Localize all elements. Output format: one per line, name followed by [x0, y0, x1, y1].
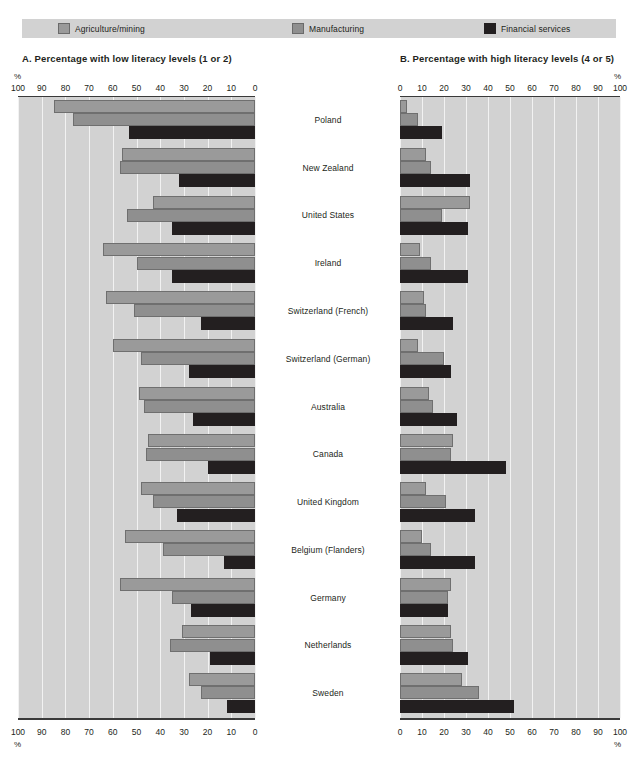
gridline	[510, 97, 511, 718]
bar-manu	[400, 543, 431, 556]
panel-b-title: B. Percentage with high literacy levels …	[400, 53, 614, 64]
axis-tick-label: 10	[417, 727, 426, 737]
bar-agri	[400, 578, 451, 591]
axis-tick-label: 20	[439, 727, 448, 737]
legend: Agriculture/mining Manufacturing Financi…	[22, 19, 616, 38]
chart-page: Agriculture/mining Manufacturing Financi…	[0, 0, 638, 758]
bar-manu	[400, 352, 444, 365]
gridline	[18, 97, 19, 718]
bar-manu	[400, 113, 418, 126]
bar-fin	[400, 270, 468, 283]
country-label: Germany	[258, 593, 398, 603]
bar-manu	[400, 495, 446, 508]
bar-fin	[400, 556, 475, 569]
panel-b-plot-area	[400, 97, 620, 718]
bar-fin	[400, 461, 506, 474]
bar-agri	[400, 291, 424, 304]
legend-label-financial-services: Financial services	[501, 24, 570, 34]
bar-fin	[179, 174, 255, 187]
square-swatch-icon	[484, 23, 496, 34]
axis-tick-label: 70	[549, 727, 558, 737]
bar-fin	[400, 604, 448, 617]
bar-fin	[400, 509, 475, 522]
bar-fin	[400, 652, 468, 665]
gridline	[89, 97, 90, 718]
bar-manu	[146, 448, 255, 461]
panel-a-percent-symbol-top: %	[14, 72, 21, 81]
bar-manu	[400, 257, 431, 270]
gridline	[137, 97, 138, 718]
bar-manu	[400, 209, 442, 222]
axis-tick-label: 90	[593, 83, 602, 93]
panel-a-axis-rule-top	[18, 96, 255, 98]
axis-tick-label: 50	[505, 727, 514, 737]
country-label: United States	[258, 210, 398, 220]
axis-tick-label: 0	[398, 83, 403, 93]
panel-b-percent-symbol-top: %	[614, 72, 621, 81]
country-label: Canada	[258, 449, 398, 459]
country-label: Belgium (Flanders)	[258, 545, 398, 555]
bar-agri	[125, 530, 255, 543]
bar-fin	[189, 365, 255, 378]
bar-agri	[54, 100, 255, 113]
bar-agri	[400, 196, 470, 209]
bar-agri	[400, 243, 420, 256]
bar-agri	[400, 434, 453, 447]
bar-fin	[400, 700, 514, 713]
bar-fin	[400, 365, 451, 378]
panel-b-axis-rule-top	[400, 96, 620, 98]
bar-manu	[170, 639, 255, 652]
gridline	[532, 97, 533, 718]
bar-fin	[400, 317, 453, 330]
bar-manu	[144, 400, 255, 413]
country-label: United Kingdom	[258, 497, 398, 507]
panel-b-axis-ticks-bottom: 0102030405060708090100	[0, 727, 638, 739]
bar-manu	[137, 257, 256, 270]
bar-agri	[189, 673, 255, 686]
axis-tick-label: 100	[613, 83, 627, 93]
bar-manu	[400, 639, 453, 652]
bar-fin	[400, 222, 468, 235]
gridline	[255, 97, 256, 718]
panel-a-plot-area	[18, 97, 255, 718]
axis-tick-label: 60	[527, 727, 536, 737]
bar-agri	[113, 339, 255, 352]
bar-fin	[191, 604, 255, 617]
bar-manu	[400, 591, 448, 604]
bar-agri	[400, 100, 407, 113]
bar-agri	[400, 148, 426, 161]
bar-fin	[177, 509, 255, 522]
country-label: Ireland	[258, 258, 398, 268]
bar-agri	[400, 625, 451, 638]
bar-fin	[227, 700, 255, 713]
gridline	[113, 97, 114, 718]
gridline	[620, 97, 621, 718]
bar-agri	[182, 625, 255, 638]
panel-b-axis-rule-bottom	[400, 718, 620, 720]
axis-tick-label: 40	[483, 83, 492, 93]
panel-b-percent-symbol-bottom: %	[614, 740, 621, 749]
gridline	[65, 97, 66, 718]
axis-tick-label: 50	[505, 83, 514, 93]
axis-tick-label: 100	[613, 727, 627, 737]
bar-agri	[106, 291, 255, 304]
legend-item-agriculture-mining: Agriculture/mining	[58, 19, 145, 38]
axis-tick-label: 60	[527, 83, 536, 93]
panel-a-percent-symbol-bottom: %	[14, 740, 21, 749]
bar-fin	[129, 126, 255, 139]
bar-fin	[201, 317, 256, 330]
bar-manu	[134, 304, 255, 317]
country-label: Sweden	[258, 688, 398, 698]
legend-label-agriculture-mining: Agriculture/mining	[75, 24, 145, 34]
axis-tick-label: 80	[571, 727, 580, 737]
gridline	[42, 97, 43, 718]
bar-manu	[141, 352, 255, 365]
gridline	[466, 97, 467, 718]
bar-manu	[120, 161, 255, 174]
bar-fin	[400, 126, 442, 139]
panel-b-axis-ticks-top: 0102030405060708090100	[0, 83, 638, 95]
bar-fin	[172, 222, 255, 235]
axis-tick-label: 80	[571, 83, 580, 93]
bar-fin	[208, 461, 255, 474]
bar-agri	[400, 339, 418, 352]
